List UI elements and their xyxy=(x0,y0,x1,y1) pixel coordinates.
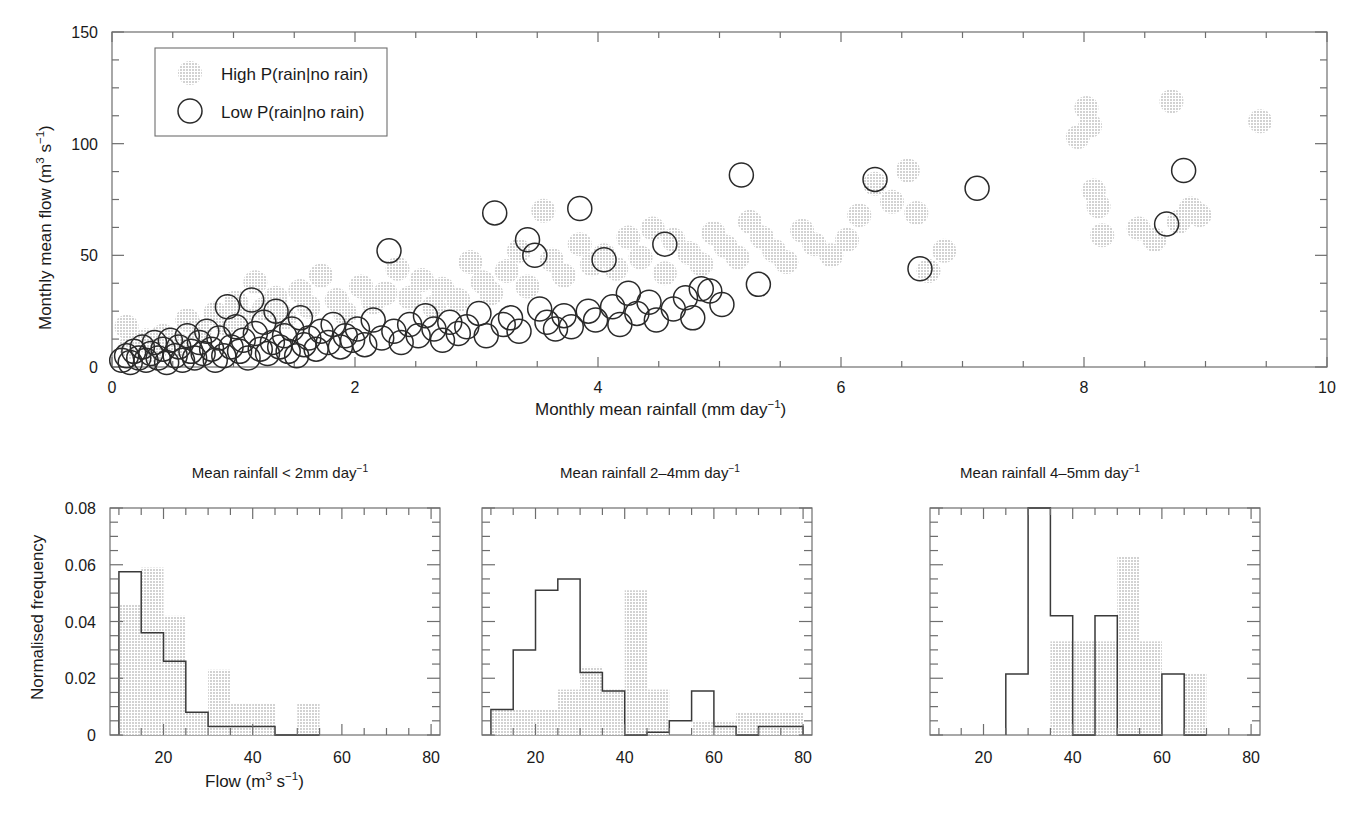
histogram-bar-high xyxy=(164,616,186,735)
legend-label-low: Low P(rain|no rain) xyxy=(221,103,364,122)
scatter-point-high xyxy=(297,295,321,319)
scatter-ytick-label: 0 xyxy=(89,359,98,376)
histogram-bar-high xyxy=(758,712,780,735)
histogram-y-axis-label: Normalised frequency xyxy=(28,535,48,700)
histogram-series-high-p xyxy=(491,590,803,735)
scatter-point-high xyxy=(568,232,592,256)
histogram-bar-high xyxy=(1184,674,1206,735)
scatter-point-low xyxy=(499,306,523,330)
scatter-point-low xyxy=(292,333,316,357)
scatter-point-low xyxy=(377,239,401,263)
scatter-point-low xyxy=(491,313,515,337)
scatter-point-low xyxy=(528,297,552,321)
scatter-point-low xyxy=(746,272,770,296)
scatter-point-high xyxy=(629,246,653,270)
histogram-bar-high xyxy=(513,709,535,735)
histogram-series-high-p xyxy=(1050,556,1206,735)
scatter-y-axis-label: Monthly mean flow (m3 s−1) xyxy=(34,125,56,330)
histogram-plot-areas: 2040608000.020.040.060.08204060802040608… xyxy=(0,440,1361,818)
scatter-ytick-label: 100 xyxy=(71,136,98,153)
scatter-point-high xyxy=(863,172,887,196)
scatter-point-low xyxy=(710,292,734,316)
histogram-xtick-label: 20 xyxy=(975,749,993,766)
scatter-point-low xyxy=(422,317,446,341)
panel-title-lt-2mm: Mean rainfall < 2mm day−1 xyxy=(110,463,450,481)
histogram-ytick-label: 0.04 xyxy=(65,614,96,631)
histogram-2-4mm: 20406080 xyxy=(482,508,812,766)
histogram-bar-high xyxy=(208,670,230,735)
y-label-sup1: 3 xyxy=(34,157,46,163)
histogram-xtick-label: 60 xyxy=(333,749,351,766)
histogram-bar-high xyxy=(692,721,714,735)
scatter-point-low xyxy=(568,196,592,220)
scatter-point-high xyxy=(373,281,397,305)
histogram-xtick-label: 80 xyxy=(794,749,812,766)
scatter-point-high xyxy=(653,261,677,285)
y-label-sup2: −1 xyxy=(34,131,46,144)
scatter-point-high xyxy=(115,315,139,339)
hist-x-label-pre: Flow (m xyxy=(205,772,265,791)
legend-marker-high xyxy=(178,61,202,85)
histogram-xtick-label: 60 xyxy=(705,749,723,766)
scatter-plot-area: 0246810050100150High P(rain|no rain)Low … xyxy=(0,0,1361,440)
y-label-tail: ) xyxy=(36,125,55,131)
scatter-point-low xyxy=(474,324,498,348)
histogram-bar-high xyxy=(186,712,208,735)
scatter-point-low xyxy=(455,315,479,339)
scatter-point-high xyxy=(916,259,940,283)
histogram-x-axis-label: Flow (m3 s−1) xyxy=(205,770,304,792)
scatter-point-high xyxy=(516,275,540,299)
scatter-xtick-label: 0 xyxy=(108,379,117,396)
histogram-bar-high xyxy=(1073,641,1095,735)
scatter-point-high xyxy=(507,239,531,263)
histogram-bar-high xyxy=(119,604,141,735)
histogram-bar-high xyxy=(253,704,275,735)
panel-title-2-4mm: Mean rainfall 2–4mm day−1 xyxy=(480,463,820,481)
scatter-point-low xyxy=(552,304,576,328)
scatter-xtick-label: 4 xyxy=(594,379,603,396)
scatter-point-high xyxy=(1159,89,1183,113)
scatter-point-high xyxy=(689,252,713,276)
scatter-point-low xyxy=(729,163,753,187)
scatter-point-high xyxy=(1078,114,1102,138)
scatter-point-high xyxy=(880,190,904,214)
panel2-title-pre: Mean rainfall 4–5mm day xyxy=(960,464,1128,481)
histogram-xtick-label: 20 xyxy=(527,749,545,766)
histogram-bar-high xyxy=(1140,641,1162,735)
scatter-point-low xyxy=(535,310,559,334)
scatter-point-high xyxy=(309,263,333,287)
histogram-bar-high xyxy=(602,690,624,735)
scatter-series-low-p xyxy=(110,158,1196,374)
histogram-bar-high xyxy=(491,709,513,735)
scatter-point-high xyxy=(835,228,859,252)
scatter-point-high xyxy=(446,288,470,312)
histogram-bar-high xyxy=(558,690,580,735)
histogram-bar-high xyxy=(297,704,319,735)
hist-x-label-sup2: −1 xyxy=(285,770,298,782)
scatter-point-low xyxy=(1172,158,1196,182)
hist-x-label-mid: s xyxy=(272,772,285,791)
scatter-point-high xyxy=(243,270,267,294)
x-label-main: Monthly mean rainfall (mm day xyxy=(535,400,767,419)
scatter-ytick-label: 150 xyxy=(71,24,98,41)
histogram-bar-high xyxy=(1117,556,1139,735)
histogram-lt-2mm: 2040608000.020.040.060.08 xyxy=(65,500,440,766)
histogram-xtick-label: 80 xyxy=(422,749,440,766)
histogram-xtick-label: 80 xyxy=(1242,749,1260,766)
histogram-bar-high xyxy=(580,667,602,735)
histogram-ytick-label: 0.06 xyxy=(65,557,96,574)
x-label-tail: ) xyxy=(781,400,787,419)
y-label-pre: Monthly mean flow (m xyxy=(36,164,55,330)
scatter-point-high xyxy=(552,263,576,287)
histogram-bar-high xyxy=(1095,641,1117,735)
scatter-point-high xyxy=(1248,109,1272,133)
histogram-ytick-label: 0 xyxy=(87,727,96,744)
hist-x-label-tail: ) xyxy=(298,772,304,791)
histogram-bar-high xyxy=(536,709,558,735)
histogram-bar-high xyxy=(1050,641,1072,735)
scatter-point-high xyxy=(847,203,871,227)
panel1-title-sup: −1 xyxy=(728,463,740,474)
scatter-point-low xyxy=(483,201,507,225)
panel0-title-sup: −1 xyxy=(357,463,369,474)
histogram-xtick-label: 40 xyxy=(244,749,262,766)
